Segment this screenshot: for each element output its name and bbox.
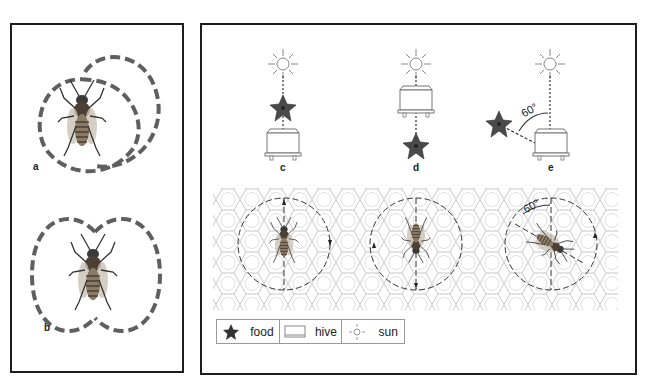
hive-icon-e	[533, 129, 569, 160]
hive-icon-d	[398, 86, 434, 117]
hive-icon-c	[265, 129, 301, 160]
food-star-icon-e	[486, 111, 512, 137]
legend-food-label: food	[250, 325, 273, 339]
panel-label-c: c	[280, 162, 286, 173]
hive-icon	[284, 324, 306, 340]
legend-sun: sun	[342, 320, 404, 343]
sun-icon-e	[535, 49, 565, 79]
honeybee-b	[69, 234, 117, 310]
panel-label-e: e	[548, 162, 554, 173]
legend-hive: hive	[280, 320, 343, 343]
legend-food: food	[217, 320, 280, 343]
panel-label-b: b	[44, 322, 50, 333]
honeybee-a	[58, 80, 106, 156]
legend-hive-label: hive	[315, 325, 337, 339]
sun-icon	[348, 323, 366, 341]
sun-icon-d	[401, 49, 431, 79]
sun-icon-c	[268, 49, 298, 79]
legend: food hive sun	[216, 319, 405, 344]
food-star-icon	[222, 323, 240, 341]
panel-label-a: a	[33, 161, 39, 172]
legend-sun-label: sun	[379, 325, 398, 339]
food-star-icon-d	[403, 133, 429, 159]
panel-label-d: d	[413, 162, 419, 173]
